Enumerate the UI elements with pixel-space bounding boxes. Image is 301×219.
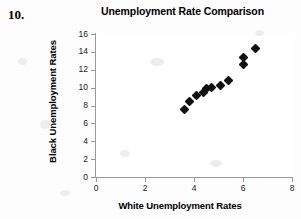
y-tick-label: 16 xyxy=(64,30,88,39)
y-tick-mark xyxy=(91,141,95,142)
y-tick-mark xyxy=(91,106,95,107)
data-point xyxy=(238,52,248,62)
y-tick-label: 8 xyxy=(64,101,88,110)
y-tick-mark xyxy=(91,52,95,53)
chart-title: Unemployment Rate Comparison xyxy=(70,6,295,18)
data-point xyxy=(179,104,189,114)
chart-page: 10. Unemployment Rate Comparison Black U… xyxy=(0,0,301,219)
x-tick-label: 4 xyxy=(184,184,204,193)
data-point xyxy=(250,43,260,53)
scan-artifact xyxy=(40,120,51,129)
y-tick-label: 4 xyxy=(64,137,88,146)
y-tick-mark xyxy=(91,34,95,35)
y-axis-title: Black Unemployment Rates xyxy=(47,27,58,177)
x-tick-label: 6 xyxy=(233,184,253,193)
scan-artifact xyxy=(60,190,70,196)
y-tick-label: 6 xyxy=(64,119,88,128)
x-tick-label: 2 xyxy=(135,184,155,193)
y-tick-label: 0 xyxy=(64,173,88,182)
y-tick-label: 2 xyxy=(64,155,88,164)
scan-artifact xyxy=(255,30,264,36)
x-tick-mark xyxy=(292,178,293,182)
y-tick-label: 12 xyxy=(64,65,88,74)
x-tick-mark xyxy=(145,178,146,182)
y-tick-mark xyxy=(91,177,95,178)
x-tick-mark xyxy=(96,178,97,182)
y-tick-label: 14 xyxy=(64,47,88,56)
x-axis-title: White Unemployment Rates xyxy=(60,200,300,211)
scan-artifact xyxy=(18,58,27,65)
x-tick-label: 8 xyxy=(282,184,301,193)
y-tick-mark xyxy=(91,88,95,89)
scan-artifact xyxy=(150,58,164,66)
scan-artifact xyxy=(120,150,130,157)
x-tick-mark xyxy=(243,178,244,182)
question-number: 10. xyxy=(8,8,24,21)
data-point xyxy=(184,96,194,106)
y-tick-mark xyxy=(91,159,95,160)
y-tick-label: 10 xyxy=(64,83,88,92)
data-point xyxy=(216,81,226,91)
scan-artifact xyxy=(210,160,222,167)
x-tick-label: 0 xyxy=(86,184,106,193)
y-tick-mark xyxy=(91,70,95,71)
y-tick-mark xyxy=(91,123,95,124)
x-tick-mark xyxy=(194,178,195,182)
